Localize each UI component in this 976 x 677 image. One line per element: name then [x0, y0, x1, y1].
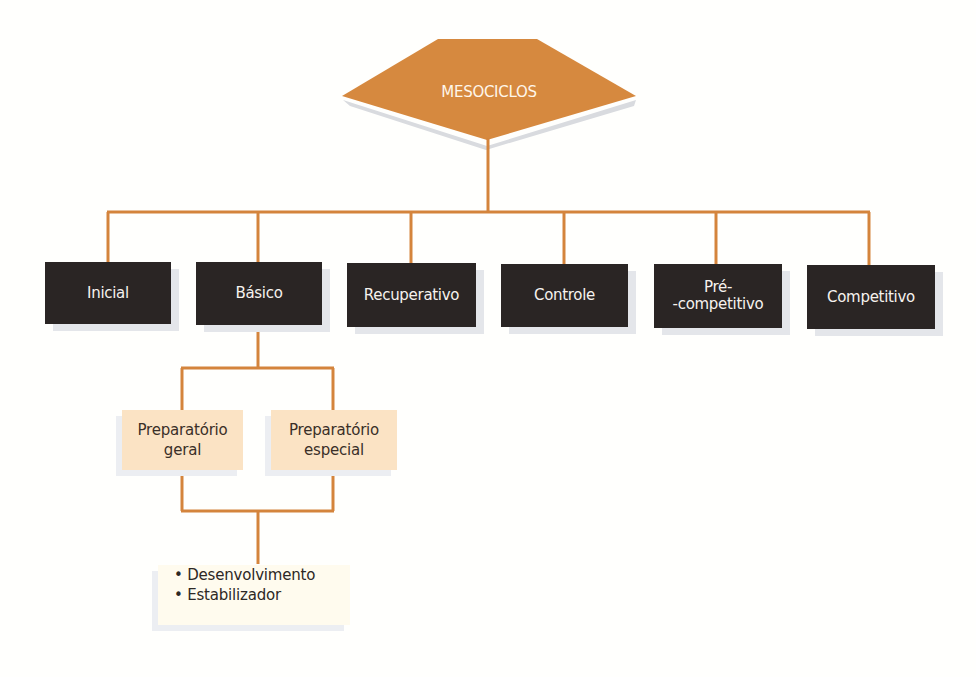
node-label: Controle	[534, 287, 595, 304]
node-label: Competitivo	[827, 289, 915, 306]
node-preparatorio-geral: Preparatório geral	[122, 410, 243, 470]
root-label: MESOCICLOS	[342, 83, 636, 101]
root-node: MESOCICLOS	[342, 39, 636, 140]
node-label-line1: Pré-	[704, 279, 732, 296]
node-preparatorio-especial: Preparatório especial	[271, 410, 397, 470]
node-pre-competitivo: Pré- -competitivo	[654, 264, 782, 328]
node-inicial: Inicial	[45, 262, 171, 324]
node-label-line2: -competitivo	[673, 296, 764, 313]
node-label: Recuperativo	[364, 287, 459, 304]
node-label-line1: Preparatório	[137, 420, 227, 440]
node-label-line1: Preparatório	[289, 420, 379, 440]
list-item: • Desenvolvimento	[174, 565, 315, 585]
list-item: • Estabilizador	[174, 585, 281, 605]
node-recuperativo: Recuperativo	[347, 263, 476, 327]
node-basico: Básico	[196, 262, 322, 325]
node-preparatorio-types: • Desenvolvimento • Estabilizador	[158, 565, 350, 625]
node-label: Inicial	[87, 285, 129, 302]
node-controle: Controle	[501, 264, 628, 327]
node-competitivo: Competitivo	[807, 265, 935, 329]
node-label-line2: especial	[304, 440, 364, 460]
node-label-line2: geral	[164, 440, 201, 460]
mesocycle-diagram: MESOCICLOS Inicial Básico Recuperativo C…	[0, 0, 976, 677]
node-label: Básico	[235, 285, 282, 302]
